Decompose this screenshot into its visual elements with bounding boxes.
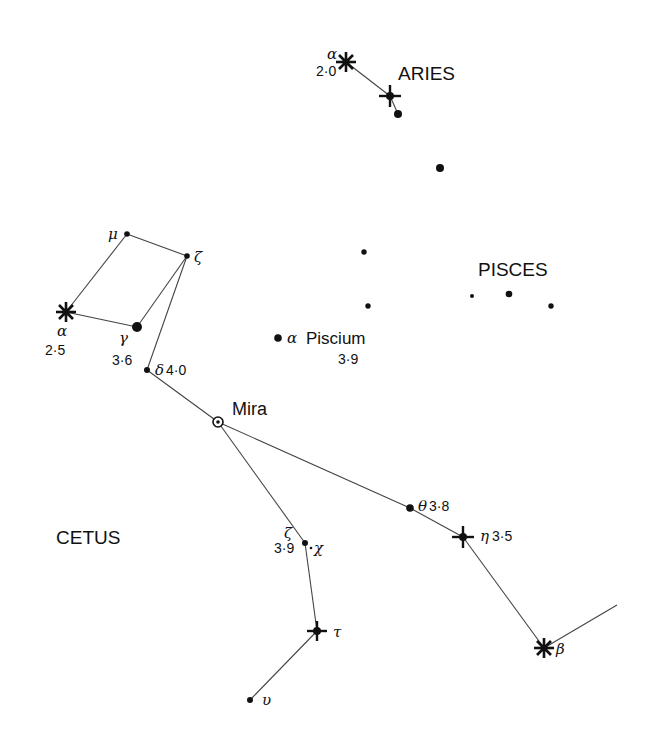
star-dot-icon [436, 164, 444, 172]
aries-alpha-star-icon [336, 52, 356, 72]
cetus-zeta-upper-label: ζ [194, 248, 203, 266]
cetus-delta-star-icon [144, 367, 150, 373]
alpha-piscium-name: Piscium [306, 329, 366, 348]
cetus-line [66, 234, 127, 312]
pisces-star-icon [506, 291, 513, 298]
cetus-gamma-star-icon [132, 322, 142, 332]
star-chart: α 2·0 ARIES PISCES α Piscium 3·9 μ ζ α 2… [0, 0, 650, 738]
cetus-delta-label: δ [155, 361, 164, 379]
aries-alpha-magnitude: 2·0 [316, 63, 336, 79]
cetus-gamma-magnitude: 3·6 [112, 352, 132, 368]
pisces-star-icon [365, 303, 370, 308]
cetus-line [544, 605, 617, 648]
cetus-mu-star-icon [124, 231, 130, 237]
cetus-alpha-magnitude: 2·5 [45, 342, 65, 358]
alpha-piscium-star-icon [274, 334, 282, 342]
cetus-eta-magnitude: 3·5 [492, 528, 512, 544]
cetus-chi-label: χ [313, 539, 324, 557]
alpha-piscium-magnitude: 3·9 [338, 351, 358, 367]
pisces-constellation-label: PISCES [478, 259, 548, 280]
cetus-tau-label: τ [333, 623, 342, 641]
cetus-alpha-star-icon [56, 302, 76, 322]
cetus-zeta-lower-magnitude: 3·9 [274, 540, 294, 556]
cetus-zeta-lower-star-icon [302, 540, 308, 546]
pisces-star-icon [361, 249, 366, 254]
cetus-beta-star-icon [534, 638, 554, 658]
cetus-alpha-greek-label: α [57, 322, 67, 340]
cetus-chi-star-icon [310, 547, 313, 550]
pisces-star-icon [470, 294, 474, 298]
cetus-beta-label: β [555, 640, 565, 658]
cetus-gamma-label: γ [119, 329, 128, 347]
aries-beta-star-icon [379, 85, 401, 107]
pisces-star-icon [548, 303, 553, 308]
cetus-line [463, 537, 544, 648]
alpha-piscium-greek-label: α [287, 329, 297, 347]
cetus-theta-label: θ [418, 497, 427, 515]
aries-alpha-greek-label: α [327, 45, 337, 63]
cetus-line [137, 256, 187, 327]
cetus-line [66, 312, 137, 327]
cetus-line [147, 256, 187, 370]
cetus-upsilon-star-icon [247, 697, 253, 703]
cetus-delta-magnitude: 4·0 [166, 362, 186, 378]
aries-gamma-star-icon [394, 110, 402, 118]
cetus-upsilon-label: υ [262, 691, 271, 709]
cetus-line [218, 422, 410, 508]
cetus-line [250, 631, 317, 700]
aries-constellation-label: ARIES [398, 63, 455, 84]
cetus-zeta-star-icon [184, 253, 190, 259]
mira-variable-star-icon [213, 417, 223, 427]
constellation-lines [66, 62, 617, 700]
cetus-eta-star-icon [452, 526, 474, 548]
cetus-theta-star-icon [406, 504, 414, 512]
cetus-line [127, 234, 187, 256]
cetus-theta-magnitude: 3·8 [429, 498, 449, 514]
cetus-constellation-label: CETUS [56, 527, 120, 548]
cetus-mu-label: μ [108, 225, 118, 243]
cetus-eta-label: η [480, 527, 489, 545]
mira-label: Mira [232, 399, 268, 419]
